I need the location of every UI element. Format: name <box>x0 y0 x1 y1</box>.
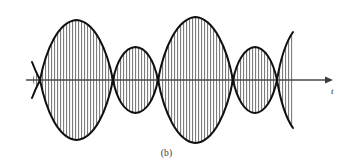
x-axis-label: t <box>331 87 334 96</box>
axis-arrow-icon <box>325 76 333 83</box>
beat-waveform-plot <box>0 0 345 166</box>
figure-caption-text: (b) <box>161 148 173 158</box>
figure-panel: t (b) <box>0 0 345 166</box>
figure-caption: (b) <box>0 148 345 158</box>
carrier-hatch-fill <box>28 10 298 158</box>
